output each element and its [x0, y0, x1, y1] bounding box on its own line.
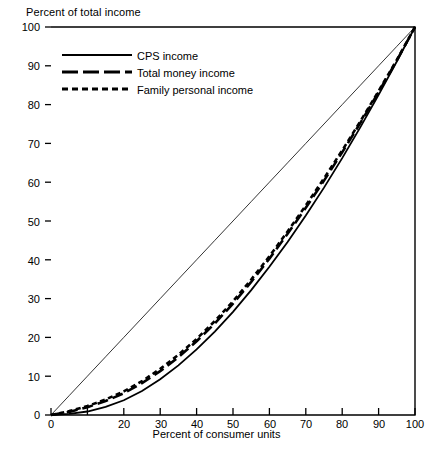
axis-ticks — [45, 27, 415, 415]
plot-area-svg — [0, 0, 433, 450]
data-curves — [51, 27, 415, 415]
legend-swatches — [62, 55, 132, 89]
curve-line-of-equality — [51, 27, 415, 415]
lorenz-curve-chart: Percent of total income Percent of consu… — [0, 0, 433, 450]
